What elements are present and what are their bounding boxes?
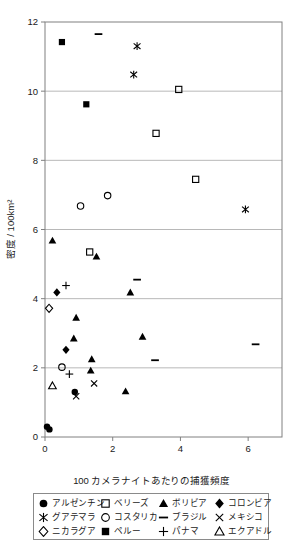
data-point-filled-diamond xyxy=(53,288,60,296)
legend-grid: アルゼンチンベリーズボリビアコロンビアグアテマラコスタリカブラジルメキシコニカラ… xyxy=(38,496,265,538)
x-axis-ticks: 0246 xyxy=(42,437,250,454)
data-point-asterisk xyxy=(130,71,137,79)
open-triangle-glyph xyxy=(215,526,224,534)
filled-diamond-glyph xyxy=(215,498,224,508)
legend-item: ブラジル xyxy=(158,512,214,523)
data-point-filled-triangle xyxy=(139,333,147,340)
svg-text:10: 10 xyxy=(27,86,38,97)
filled-triangle-glyph xyxy=(159,498,168,506)
dash-icon xyxy=(158,512,169,523)
svg-text:12: 12 xyxy=(27,16,38,27)
legend-item: ニカラグア xyxy=(38,526,100,537)
legend-item-label: グアテマラ xyxy=(52,513,96,522)
filled-circle-icon xyxy=(38,498,49,509)
cross-x-icon xyxy=(214,512,225,523)
data-point-open-square xyxy=(87,249,93,255)
data-point-filled-circle xyxy=(46,426,52,432)
legend-item-label: ペルー xyxy=(114,527,140,536)
svg-text:0: 0 xyxy=(33,431,38,442)
data-point-open-circle xyxy=(59,364,65,370)
legend-item-label: ブラジル xyxy=(172,513,207,522)
legend-item: ベリーズ xyxy=(100,498,158,509)
open-triangle-icon xyxy=(214,526,225,537)
data-point-filled-square xyxy=(59,39,65,45)
y-axis-ticks: 024681012 xyxy=(27,16,45,442)
legend-item: グアテマラ xyxy=(38,512,100,523)
data-point-open-square xyxy=(193,176,199,182)
legend-item-label: メキシコ xyxy=(228,513,263,522)
legend-item: アルゼンチン xyxy=(38,498,100,509)
scatter-chart-figure: 024681012 0246 密度 / 100km² 100 カメラナイトあたり… xyxy=(0,0,303,547)
open-diamond-glyph xyxy=(39,526,48,536)
svg-text:6: 6 xyxy=(33,224,38,235)
data-point-open-triangle xyxy=(49,382,57,389)
legend-item-label: ベリーズ xyxy=(114,499,149,508)
legend-item: メキシコ xyxy=(214,512,270,523)
data-point-plus xyxy=(62,282,70,290)
cross-x-glyph xyxy=(216,513,223,520)
legend-item-label: エクアドル xyxy=(228,527,272,536)
plot-area-wrapper: 024681012 0246 密度 / 100km² xyxy=(0,0,303,465)
data-point-asterisk xyxy=(242,206,249,214)
data-point-open-circle xyxy=(104,192,110,198)
legend-item-label: ボリビア xyxy=(172,499,207,508)
legend: アルゼンチンベリーズボリビアコロンビアグアテマラコスタリカブラジルメキシコニカラ… xyxy=(33,493,269,540)
scatter-plot-svg: 024681012 0246 密度 / 100km² xyxy=(0,0,303,465)
data-points-group xyxy=(44,34,260,433)
svg-text:密度 / 100km²: 密度 / 100km² xyxy=(5,200,16,260)
open-square-glyph xyxy=(102,499,109,506)
svg-text:2: 2 xyxy=(33,362,38,373)
asterisk-icon xyxy=(38,512,49,523)
filled-square-glyph xyxy=(102,527,109,534)
open-circle-glyph xyxy=(102,513,110,521)
svg-text:2: 2 xyxy=(110,443,115,454)
legend-item: コスタリカ xyxy=(100,512,158,523)
data-point-cross-x xyxy=(91,380,97,386)
filled-triangle-icon xyxy=(158,498,169,509)
asterisk-glyph xyxy=(39,512,47,521)
plus-glyph xyxy=(159,526,168,535)
svg-text:4: 4 xyxy=(178,443,183,454)
data-point-filled-triangle xyxy=(122,388,130,395)
open-diamond-icon xyxy=(38,526,49,537)
legend-item-label: アルゼンチン xyxy=(52,499,105,508)
open-square-icon xyxy=(100,498,111,509)
data-point-filled-triangle xyxy=(49,237,57,244)
data-point-filled-diamond xyxy=(62,346,69,354)
filled-circle-glyph xyxy=(40,499,48,507)
y-axis-title: 密度 / 100km² xyxy=(5,200,16,260)
data-point-open-circle xyxy=(77,203,83,209)
legend-item-label: ニカラグア xyxy=(52,527,96,536)
legend-item: コロンビア xyxy=(214,498,270,509)
svg-text:4: 4 xyxy=(33,293,38,304)
legend-item-label: コロンビア xyxy=(228,499,272,508)
data-point-plus xyxy=(66,370,74,378)
legend-item: ボリビア xyxy=(158,498,214,509)
data-point-filled-triangle xyxy=(72,314,80,321)
data-point-filled-triangle xyxy=(126,289,134,296)
svg-text:0: 0 xyxy=(42,443,47,454)
data-point-open-diamond xyxy=(45,304,52,312)
x-axis-title: 100 カメラナイトあたりの捕獲頻度 xyxy=(0,473,303,487)
legend-item: エクアドル xyxy=(214,526,270,537)
legend-item-label: パナマ xyxy=(172,527,198,536)
legend-item: ペルー xyxy=(100,526,158,537)
data-point-filled-triangle xyxy=(93,253,101,260)
open-circle-icon xyxy=(100,512,111,523)
plus-icon xyxy=(158,526,169,537)
gridlines-group xyxy=(45,91,282,368)
filled-diamond-icon xyxy=(214,498,225,509)
data-point-open-square xyxy=(153,130,159,136)
svg-text:6: 6 xyxy=(245,443,250,454)
data-point-filled-square xyxy=(83,101,89,107)
data-point-asterisk xyxy=(134,42,141,50)
legend-item-label: コスタリカ xyxy=(114,513,158,522)
data-point-filled-triangle xyxy=(70,335,78,342)
filled-square-icon xyxy=(100,526,111,537)
legend-item: パナマ xyxy=(158,526,214,537)
svg-text:8: 8 xyxy=(33,155,38,166)
data-point-filled-triangle xyxy=(88,355,96,362)
